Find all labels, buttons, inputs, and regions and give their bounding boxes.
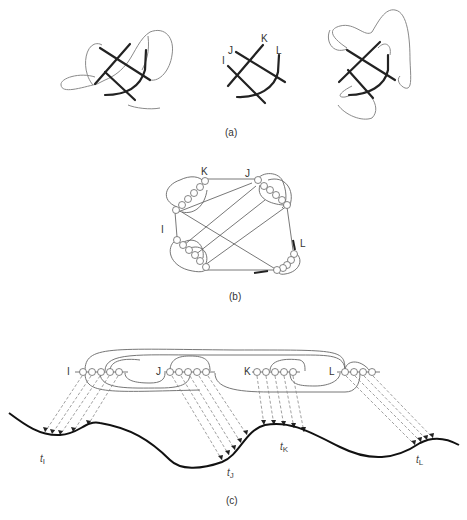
svg-text:tI: tI [40,453,45,466]
panel-c: I J K L [9,349,459,506]
svg-text:tK: tK [280,441,289,454]
t-label-l: tL [416,454,424,467]
caption-a: (a) [225,127,237,138]
cluster-i: I [161,224,210,272]
caption-b: (b) [229,291,241,302]
panel-a: J I K L (a) [61,10,411,138]
group-label-k: K [244,366,251,377]
strand-label-l: L [276,45,282,56]
node-label-k: K [201,166,208,177]
group-l: L [329,366,380,377]
crossings-labeled: J I K L [222,33,285,103]
tangle-right [328,10,410,119]
cluster-l: L [254,238,306,274]
figure: J I K L (a) [0,0,467,520]
t-label-k: tK [280,441,289,454]
svg-text:tJ: tJ [227,467,234,480]
panel-b: K J I [161,166,306,302]
cluster-k: K [166,166,208,214]
trajectory-curve [9,413,459,468]
node-label-l: L [300,238,306,249]
strand-label-k: K [261,33,268,44]
group-i: I [67,366,128,377]
tangle-left [61,30,173,108]
node-label-j: J [245,168,250,179]
cluster-j: J [245,168,291,209]
t-label-j: tJ [227,467,234,480]
node-label-i: I [161,224,164,235]
t-label-i: tI [40,453,45,466]
group-label-j: J [156,366,161,377]
strand-label-j: J [228,45,233,56]
svg-text:tL: tL [416,454,424,467]
group-k: K [244,366,300,377]
group-label-l: L [329,366,335,377]
caption-c: (c) [226,495,238,506]
group-label-i: I [67,366,70,377]
strand-label-i: I [222,55,225,66]
